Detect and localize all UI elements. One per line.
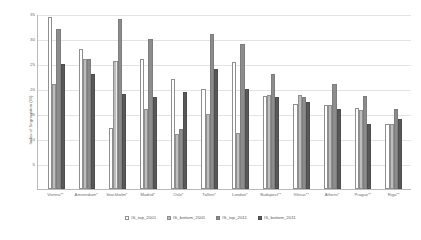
bar-group: [256, 15, 287, 189]
x-axis-tick-label: Stockholm*: [102, 193, 133, 197]
bar-group: [286, 15, 317, 189]
bar: [183, 92, 187, 190]
y-axis-tick-label: 35: [30, 13, 38, 17]
bar-group: [194, 15, 225, 189]
legend-swatch-icon: [125, 216, 129, 220]
bar: [275, 97, 279, 190]
x-axis-tick-label: Budapest**: [255, 193, 286, 197]
bar: [245, 89, 249, 189]
bar-group: [348, 15, 379, 189]
legend-item[interactable]: IS_bottom_2011: [258, 216, 296, 220]
bar-groups: [38, 15, 411, 189]
legend-label: IS_top_2011: [222, 216, 247, 220]
bar-group: [133, 15, 164, 189]
y-axis-tick-label: 10: [30, 138, 38, 142]
segregation-bar-chart: Index of Segregation (IS) 5101520253035 …: [0, 0, 421, 240]
x-axis-tick-label: Amsterdam*: [71, 193, 102, 197]
bar-group: [378, 15, 409, 189]
legend-label: IS_bottom_2011: [264, 216, 296, 220]
bar: [91, 74, 95, 189]
y-axis-tick-label: 15: [30, 113, 38, 117]
bar-group: [317, 15, 348, 189]
legend-swatch-icon: [167, 216, 171, 220]
chart-legend: IS_top_2001IS_bottom_2001IS_top_2011IS_b…: [0, 216, 421, 220]
bar: [398, 119, 402, 189]
bar: [61, 64, 65, 189]
bar-group: [164, 15, 195, 189]
y-axis-tick-label: 25: [30, 63, 38, 67]
x-axis-tick-label: Madrid*: [132, 193, 163, 197]
bar-group: [225, 15, 256, 189]
x-axis-tick-label: Oslo*: [163, 193, 194, 197]
x-axis-tick-label: Vilnius**: [286, 193, 317, 197]
x-axis-tick-label: Riga**: [378, 193, 409, 197]
x-axis-tick-label: Vienna**: [40, 193, 71, 197]
bar-group: [41, 15, 72, 189]
plot-area: 5101520253035: [37, 15, 411, 190]
legend-label: IS_top_2001: [131, 216, 156, 220]
x-axis-tick-label: Tallinn*: [194, 193, 225, 197]
legend-item[interactable]: IS_top_2011: [216, 216, 247, 220]
bar: [214, 69, 218, 189]
legend-swatch-icon: [216, 216, 220, 220]
bar: [153, 97, 157, 190]
bar: [122, 94, 126, 189]
y-axis-tick-label: 20: [30, 88, 38, 92]
bar: [306, 102, 310, 190]
legend-item[interactable]: IS_top_2001: [125, 216, 156, 220]
x-axis-tick-label: London*: [225, 193, 256, 197]
y-axis-tick-label: 30: [30, 38, 38, 42]
x-axis-labels: Vienna**Amsterdam*Stockholm*Madrid*Oslo*…: [37, 193, 411, 197]
legend-swatch-icon: [258, 216, 262, 220]
x-axis-tick-label: Prague**: [348, 193, 379, 197]
bar-group: [102, 15, 133, 189]
legend-label: IS_bottom_2001: [173, 216, 205, 220]
legend-item[interactable]: IS_bottom_2001: [167, 216, 205, 220]
x-axis-tick-label: Athens*: [317, 193, 348, 197]
bar: [337, 109, 341, 189]
bar: [367, 124, 371, 189]
bar-group: [72, 15, 103, 189]
